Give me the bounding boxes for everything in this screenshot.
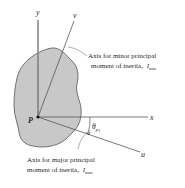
angle-subsubscript: 1 — [98, 128, 100, 133]
y-axis-label: y — [35, 8, 40, 17]
major-axis-annotation-line1: Axis for major principal — [27, 156, 95, 164]
major-axis-annotation-text: moment of inertia, — [27, 166, 79, 174]
origin-point — [36, 115, 39, 118]
v-axis-label: v — [73, 11, 77, 20]
major-axis-subscript: max — [85, 170, 93, 175]
minor-axis-leader — [68, 47, 87, 56]
minor-axis-annotation-text: moment of inertia, — [91, 62, 143, 70]
major-axis-annotation-line2: moment of inertia, Imax — [27, 166, 93, 175]
minor-axis-annotation-line2: moment of inertia, Imin — [91, 62, 157, 71]
minor-axis-annotation-line1: Axis for minor principal — [88, 52, 156, 60]
angle-label: θp1 — [92, 122, 100, 133]
minor-axis-subscript: min — [149, 66, 157, 71]
x-axis-label: x — [149, 113, 154, 122]
cross-section-shape — [14, 48, 81, 147]
diagram-canvas: y v x u P θp1 Axis for minor principal m… — [0, 0, 185, 188]
origin-label: P — [28, 116, 33, 125]
u-axis-label: u — [141, 150, 145, 159]
